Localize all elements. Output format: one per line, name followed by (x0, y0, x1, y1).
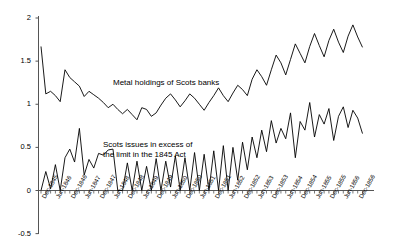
chart-plot-area (0, 0, 393, 251)
metal-holdings-annotation: Metal holdings of Scots banks (113, 78, 219, 88)
data-series-group (41, 25, 363, 191)
y-axis-tick-label: 1 (5, 100, 31, 108)
y-axis-tick-label: -0.5 (5, 230, 31, 238)
y-axis-tick-label: 0 (5, 187, 31, 195)
scots-issues-annotation-line1: Scots issues in excess of (103, 140, 192, 150)
series-line-1 (41, 25, 363, 120)
scots-issues-annotation-line2: the limit in the 1845 Act (103, 150, 186, 160)
chart-container: 21.510.50-0.5 Dec-1845Jun-1846Dec-1846Ju… (0, 0, 393, 251)
axis-lines (39, 16, 375, 234)
y-axis-tick-label: 0.5 (5, 143, 31, 151)
y-axis-tick-label: 2 (5, 14, 31, 22)
y-axis-tick-label: 1.5 (5, 57, 31, 65)
